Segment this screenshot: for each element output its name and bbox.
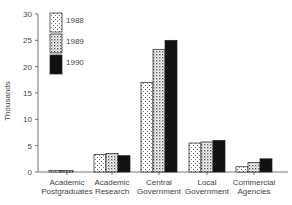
legend-label: 1990 <box>66 58 84 67</box>
y-tick-label: 15 <box>23 89 32 98</box>
category-label: Local <box>197 178 216 187</box>
y-tick-label: 20 <box>23 63 32 72</box>
category-label: Research <box>95 187 129 196</box>
legend-label: 1989 <box>66 37 84 46</box>
category-label: Academic <box>49 178 84 187</box>
bar-1989 <box>201 142 213 172</box>
category-label: Central <box>146 178 172 187</box>
legend-label: 1988 <box>66 16 84 25</box>
bar-1990 <box>213 140 225 172</box>
bar-1989 <box>153 49 165 172</box>
legend-swatch-1989 <box>50 34 62 53</box>
category-label: Agencies <box>238 187 271 196</box>
y-tick-label: 5 <box>28 142 33 151</box>
y-tick-label: 25 <box>23 36 32 45</box>
bar-chart: 051015202530ThousandsAcademicPostgraduat… <box>0 0 292 205</box>
y-tick-label: 0 <box>28 168 33 177</box>
y-tick-label: 10 <box>23 115 32 124</box>
bar-1989 <box>61 170 73 172</box>
category-label: Commercial <box>233 178 276 187</box>
bar-1989 <box>248 163 260 172</box>
category-label: Academic <box>94 178 129 187</box>
bar-1988 <box>236 167 248 172</box>
legend-swatch-1988 <box>50 13 62 32</box>
y-tick-label: 30 <box>23 10 32 19</box>
bar-1990 <box>260 159 272 172</box>
bar-1988 <box>141 82 153 172</box>
category-label: Government <box>137 187 182 196</box>
y-axis-label: Thousands <box>3 81 12 121</box>
bar-1988 <box>189 143 201 172</box>
bar-1988 <box>49 170 61 172</box>
legend-swatch-1990 <box>50 55 62 74</box>
bar-1990 <box>165 40 177 172</box>
bar-1988 <box>94 155 106 172</box>
category-label: Postgraduates <box>41 187 93 196</box>
bar-1990 <box>118 156 130 172</box>
bar-1989 <box>106 154 118 172</box>
legend: 198819891990 <box>50 13 84 74</box>
category-label: Government <box>185 187 230 196</box>
